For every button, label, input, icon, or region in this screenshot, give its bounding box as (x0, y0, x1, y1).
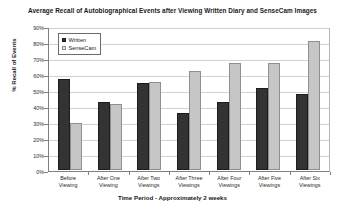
bar-written[interactable] (217, 102, 229, 170)
x-axis-label-container: BeforeViewingAfter OneViewingAfter TwoVi… (48, 175, 330, 189)
chart-title: Average Recall of Autobiographical Event… (0, 7, 345, 15)
legend-entry-sensecam: SenseCam (62, 44, 96, 52)
x-axis-tick-label-line: Viewing (88, 182, 128, 189)
y-axis-tick-label: 30% (18, 121, 44, 127)
bar-sensecam[interactable] (308, 41, 320, 170)
bar-sensecam[interactable] (110, 104, 122, 170)
legend-entry-written: Written (62, 36, 96, 44)
x-axis-tick-label-line: Viewings (169, 182, 209, 189)
y-axis-tick-label: 0% (18, 169, 44, 175)
x-axis-tick-label: After FiveViewings (249, 175, 289, 189)
y-axis-tick-label: 80% (18, 41, 44, 47)
x-axis-title: Time Period - Approximately 2 weeks (0, 194, 345, 201)
x-axis-tick-label: After FourViewings (209, 175, 249, 189)
bar-sensecam[interactable] (70, 123, 82, 170)
y-axis-tick-label: 60% (18, 73, 44, 79)
bar-sensecam[interactable] (229, 63, 241, 170)
bar-group (129, 28, 169, 170)
x-axis-tick-label-line: Viewings (290, 182, 330, 189)
x-axis-tick-label-line: After Three (169, 175, 209, 182)
x-axis-tick-label: After OneViewing (88, 175, 128, 189)
bar-written[interactable] (58, 79, 70, 171)
x-axis-tick-label-line: After One (88, 175, 128, 182)
bar-written[interactable] (256, 88, 268, 170)
bar-sensecam[interactable] (268, 63, 280, 170)
x-axis-tick-label-line: Viewings (209, 182, 249, 189)
legend-label-written: Written (69, 37, 87, 43)
bar-group (288, 28, 328, 170)
x-axis-tick-label-line: Viewings (249, 182, 289, 189)
y-axis-title: % Recall of Events (11, 15, 17, 115)
legend-label-sensecam: SenseCam (69, 45, 97, 51)
chart-screenshot: Average Recall of Autobiographical Event… (0, 0, 345, 209)
y-axis-tick-label: 20% (18, 137, 44, 143)
x-axis-tick-label-line: After Four (209, 175, 249, 182)
chart-legend: Written SenseCam (58, 33, 101, 55)
x-axis-tick-label-line: After Two (129, 175, 169, 182)
x-axis-tick-label-line: Viewing (48, 182, 88, 189)
bar-written[interactable] (296, 94, 308, 170)
y-axis-tick-label: 40% (18, 105, 44, 111)
y-axis-tick-mark (44, 172, 48, 173)
x-axis-tick-label: After TwoViewings (129, 175, 169, 189)
bar-group (249, 28, 289, 170)
x-axis-tick-label: After ThreeViewings (169, 175, 209, 189)
bar-sensecam[interactable] (149, 82, 161, 170)
y-axis-tick-label: 50% (18, 89, 44, 95)
x-axis-tick-label: BeforeViewing (48, 175, 88, 189)
y-axis-tick-label: 10% (18, 153, 44, 159)
bar-written[interactable] (137, 83, 149, 170)
x-axis-tick-label-line: After Five (249, 175, 289, 182)
bar-sensecam[interactable] (189, 71, 201, 170)
bar-group (169, 28, 209, 170)
y-axis-tick-label: 70% (18, 57, 44, 63)
x-axis-tick-label-line: Before (48, 175, 88, 182)
bar-group (209, 28, 249, 170)
x-axis-tick-mark (330, 172, 331, 175)
y-axis-tick-label: 90% (18, 25, 44, 31)
bar-written[interactable] (177, 113, 189, 170)
x-axis-tick-label-line: Viewings (129, 182, 169, 189)
bar-written[interactable] (98, 102, 110, 170)
x-axis-tick-label: After SixViewings (290, 175, 330, 189)
x-axis-tick-label-line: After Six (290, 175, 330, 182)
legend-swatch-sensecam-icon (62, 46, 66, 50)
legend-swatch-written-icon (62, 38, 66, 42)
